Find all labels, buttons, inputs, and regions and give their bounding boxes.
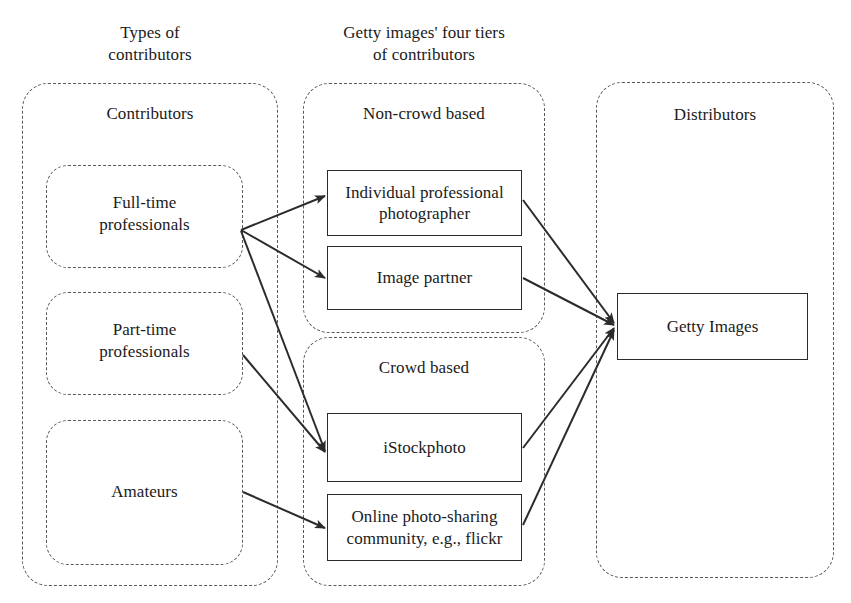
column-heading-tiers-line2: of contributors xyxy=(300,44,548,66)
column-heading-types-line2: contributors xyxy=(22,44,278,66)
node-amateurs-label-line1: Amateurs xyxy=(47,481,242,503)
node-amateurs[interactable]: Amateurs xyxy=(46,420,243,565)
node-full-time-professionals-label-line2: professionals xyxy=(47,214,242,236)
node-istockphoto[interactable]: iStockphoto xyxy=(327,413,522,482)
group-contributors-label: Contributors xyxy=(23,104,277,124)
column-heading-tiers-line1: Getty images' four tiers xyxy=(300,22,548,44)
column-heading-getty-tiers: Getty images' four tiers of contributors xyxy=(300,22,548,67)
node-image-partner[interactable]: Image partner xyxy=(327,246,522,310)
group-non-crowd-based-label: Non-crowd based xyxy=(304,104,544,124)
node-individual-professional-photographer-line1: Individual professional xyxy=(345,182,503,203)
node-getty-images-line1: Getty Images xyxy=(667,316,759,337)
group-distributors-label: Distributors xyxy=(597,105,833,125)
node-part-time-professionals[interactable]: Part-time professionals xyxy=(46,292,243,395)
diagram-canvas: Types of contributors Getty images' four… xyxy=(0,0,851,603)
node-part-time-professionals-label-line2: professionals xyxy=(47,341,242,363)
node-online-photo-sharing-community-line1: Online photo-sharing xyxy=(347,506,503,527)
node-getty-images[interactable]: Getty Images xyxy=(617,293,808,360)
column-heading-types-of-contributors: Types of contributors xyxy=(22,22,278,67)
node-full-time-professionals[interactable]: Full-time professionals xyxy=(46,165,243,268)
node-istockphoto-line1: iStockphoto xyxy=(383,437,466,458)
node-part-time-professionals-label-line1: Part-time xyxy=(47,319,242,341)
node-individual-professional-photographer[interactable]: Individual professional photographer xyxy=(327,170,522,236)
node-individual-professional-photographer-line2: photographer xyxy=(345,203,503,224)
node-image-partner-line1: Image partner xyxy=(377,267,473,288)
group-crowd-based-label: Crowd based xyxy=(304,358,544,378)
node-online-photo-sharing-community[interactable]: Online photo-sharing community, e.g., fl… xyxy=(327,494,522,561)
column-heading-types-line1: Types of xyxy=(22,22,278,44)
node-full-time-professionals-label-line1: Full-time xyxy=(47,192,242,214)
node-online-photo-sharing-community-line2: community, e.g., flickr xyxy=(347,528,503,549)
